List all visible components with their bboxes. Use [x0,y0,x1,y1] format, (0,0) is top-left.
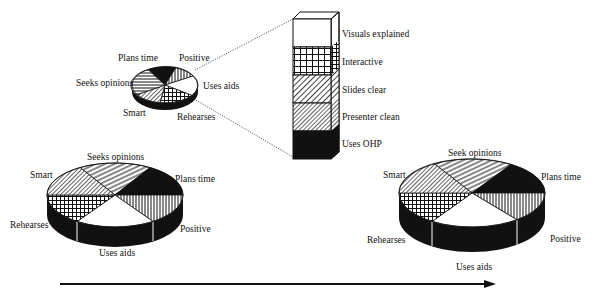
column-label-presenter-clean: Presenter clean [342,112,400,122]
left-label-rehearses: Rehearses [10,220,49,230]
right-label-positive: Positive [550,234,581,244]
right-label-rehearses: Rehearses [367,235,406,245]
arrow-head-icon [484,280,496,288]
diagram-canvas: Plans time Positive Uses aids Rehearses … [0,0,595,297]
small-label-seeks-opinions: Seeks opinions [76,78,134,88]
left-label-uses-aids: Uses aids [99,248,135,258]
right-label-seek-opinions: Seek opinions [448,148,502,158]
right-label-uses-aids: Uses aids [456,262,492,272]
small-label-plans-time: Plans time [118,53,158,63]
column-label-interactive: Interactive [342,57,383,67]
right-label-plans-time: Plans time [541,172,581,182]
connector-top [195,19,293,70]
segment-slides-clear [293,75,331,103]
small-pie: Plans time Positive Uses aids Rehearses … [76,53,239,122]
stacked-column: Visuals explained Interactive Slides cle… [293,12,409,159]
column-label-visuals-explained: Visuals explained [342,29,409,39]
small-label-positive: Positive [179,53,210,63]
progression-arrow [60,280,496,288]
column-label-slides-clear: Slides clear [342,85,387,95]
segment-presenter-clean [293,103,331,131]
segment-uses-ohp [293,131,331,159]
right-label-smart: Smart [383,170,406,180]
left-label-positive: Positive [180,224,211,234]
left-label-seeks-opinions: Seeks opinions [87,152,145,162]
left-label-plans-time: Plans time [175,174,215,184]
column-label-uses-ohp: Uses OHP [342,139,382,149]
right-pie: Seek opinions Plans time Positive Uses a… [367,148,581,272]
left-pie: Seeks opinions Plans time Positive Uses … [10,152,215,258]
segment-interactive [293,47,331,75]
small-label-smart: Smart [123,108,146,118]
left-label-smart: Smart [30,170,53,180]
segment-visuals-explained [293,19,331,47]
small-label-uses-aids: Uses aids [203,81,239,91]
connector-bottom [194,99,293,157]
small-label-rehearses: Rehearses [177,112,216,122]
